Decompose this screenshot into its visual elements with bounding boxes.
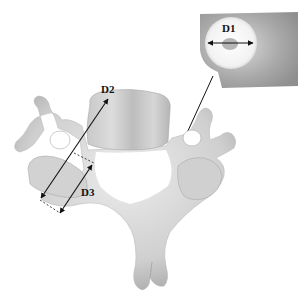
right-articular-process [178,158,222,200]
vertebral-artery-section [222,38,238,50]
left-transverse-foramen [50,131,70,149]
label-d3: D3 [81,186,95,198]
vertebra [15,89,236,290]
left-articular-process [28,156,87,198]
label-d2: D2 [101,83,115,95]
diagram-canvas: D1 D2 D3 [0,0,302,301]
right-transverse-foramen [183,130,201,146]
label-d1: D1 [222,22,235,34]
vertebra-diagram: D1 D2 D3 [0,0,302,301]
inset-panel: D1 [200,12,298,88]
vertebral-body [87,89,170,150]
